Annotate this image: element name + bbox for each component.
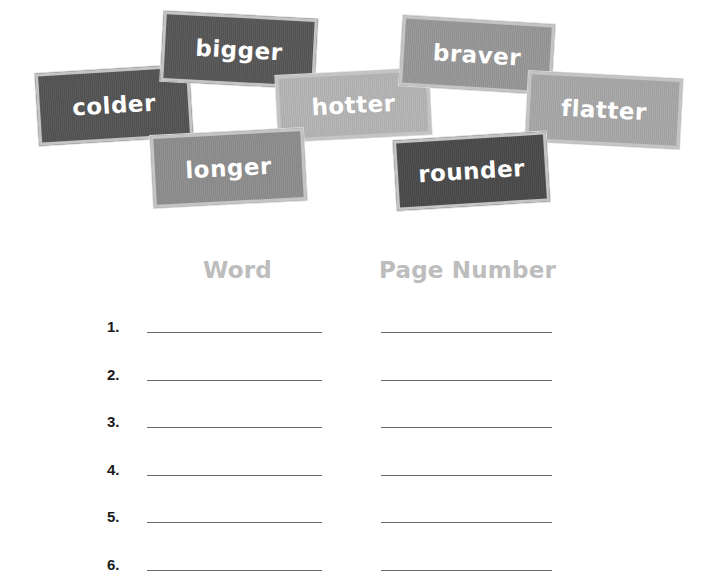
column-header-page-number: Page Number [379, 257, 556, 283]
page-number-answer-line[interactable] [381, 427, 552, 428]
word-answer-line[interactable] [147, 522, 322, 523]
card-word: rounder [417, 155, 525, 187]
word-card-longer: longer [150, 128, 307, 208]
row-number: 3. [107, 413, 120, 430]
row-number: 5. [107, 508, 120, 525]
row-number: 2. [107, 366, 120, 383]
card-word: colder [71, 89, 156, 120]
word-answer-line[interactable] [147, 332, 322, 333]
card-word: bigger [195, 35, 283, 66]
page-number-answer-line[interactable] [381, 380, 552, 381]
word-card-rounder: rounder [393, 131, 550, 210]
word-answer-line[interactable] [147, 427, 322, 428]
page-number-answer-line[interactable] [381, 570, 552, 571]
word-card-flatter: flatter [525, 71, 682, 149]
card-word: hotter [311, 90, 396, 120]
row-number: 6. [107, 556, 120, 573]
page-number-answer-line[interactable] [381, 522, 552, 523]
row-number: 1. [107, 318, 120, 335]
card-word: flatter [560, 95, 647, 125]
card-word: longer [185, 153, 273, 183]
row-number: 4. [107, 461, 120, 478]
card-word: braver [432, 39, 522, 70]
page-number-answer-line[interactable] [381, 475, 552, 476]
word-answer-line[interactable] [147, 380, 322, 381]
word-answer-line[interactable] [147, 475, 322, 476]
word-answer-line[interactable] [147, 570, 322, 571]
column-header-word: Word [203, 257, 272, 283]
page-number-answer-line[interactable] [381, 332, 552, 333]
